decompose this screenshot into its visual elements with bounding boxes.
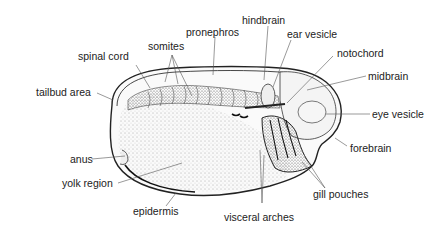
label-notochord: notochord (337, 47, 384, 59)
label-anus: anus (70, 153, 93, 165)
label-visceral-arches: visceral arches (224, 211, 294, 223)
label-ear-vesicle: ear vesicle (287, 28, 337, 40)
label-somites: somites (148, 40, 184, 52)
label-spinal-cord: spinal cord (78, 50, 129, 62)
label-yolk-region: yolk region (62, 177, 113, 189)
label-tailbud-area: tailbud area (36, 86, 91, 98)
eye-vesicle-shape (298, 101, 326, 123)
label-midbrain: midbrain (368, 70, 408, 82)
label-eye-vesicle: eye vesicle (372, 108, 424, 120)
label-forebrain: forebrain (350, 142, 391, 154)
label-hindbrain: hindbrain (242, 14, 285, 26)
label-gill-pouches: gill pouches (313, 188, 368, 200)
label-pronephros: pronephros (186, 26, 239, 38)
label-epidermis: epidermis (133, 205, 179, 217)
